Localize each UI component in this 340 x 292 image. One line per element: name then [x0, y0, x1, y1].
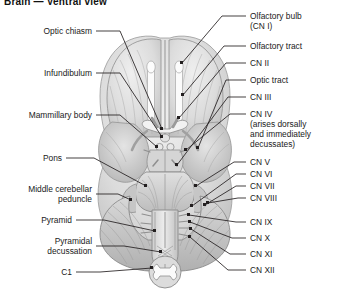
dot-cn9 [187, 213, 190, 216]
label-cn12: CN XII [250, 265, 275, 275]
dot-pyramidal-decussation [159, 250, 162, 253]
dot-pons [144, 184, 147, 187]
label-optic-chiasm-text: Optic chiasm [44, 26, 92, 36]
label-olfactory-tract: Olfactory tract [250, 41, 302, 51]
label-cn5-text: CN V [250, 157, 270, 167]
label-mcp-line1: Middle cerebellar [28, 184, 92, 194]
label-cn4: CN IV (arises dorsally and immediately d… [250, 109, 311, 149]
label-mammillary-body-text: Mammillary body [29, 110, 92, 120]
label-cn3: CN III [250, 92, 271, 102]
dot-cn11 [189, 227, 192, 230]
label-c1-text: C1 [61, 267, 72, 277]
label-cn4-line4: decussates) [250, 139, 311, 149]
label-infundibulum-text: Infundibulum [44, 68, 92, 78]
label-cn5: CN V [250, 157, 270, 167]
label-middle-cerebellar-peduncle: Middle cerebellar peduncle [28, 184, 92, 204]
dot-olfactory-tract [181, 93, 184, 96]
label-cn8-text: CN VIII [250, 193, 277, 203]
label-cn11: CN XI [250, 249, 272, 259]
label-cn10: CN X [250, 233, 270, 243]
label-cn7: CN VII [250, 181, 275, 191]
dot-infundibulum [160, 135, 163, 138]
label-cn9-text: CN IX [250, 217, 272, 227]
label-cn6: CN VI [250, 169, 272, 179]
label-olfactory-tract-text: Olfactory tract [250, 41, 302, 51]
label-optic-tract: Optic tract [250, 75, 288, 85]
label-pyr-dec-line2: decussation [47, 246, 92, 256]
label-cn7-text: CN VII [250, 181, 275, 191]
label-cn2-text: CN II [250, 58, 269, 68]
dot-cn8 [206, 201, 209, 204]
label-olfactory-bulb-line2: (CN I) [250, 21, 302, 31]
label-mcp-line2: peduncle [28, 194, 92, 204]
brain-anatomy [98, 36, 232, 288]
label-optic-tract-text: Optic tract [250, 75, 288, 85]
olfactory-bulb-left [147, 61, 155, 73]
label-cn2: CN II [250, 58, 269, 68]
label-optic-chiasm: Optic chiasm [44, 26, 92, 36]
label-pyramidal-decussation: Pyramidal decussation [47, 236, 92, 256]
dot-pyramid [153, 229, 156, 232]
dot-cn2 [177, 116, 180, 119]
dot-c1 [150, 266, 153, 269]
label-cn9: CN IX [250, 217, 272, 227]
label-olfactory-bulb: Olfactory bulb (CN I) [250, 11, 302, 31]
label-pons: Pons [43, 153, 62, 163]
label-mammillary-body: Mammillary body [29, 110, 92, 120]
label-pyramid: Pyramid [41, 215, 72, 225]
dot-cn6 [190, 204, 193, 207]
dot-mammillary-body [155, 145, 158, 148]
label-cn4-line3: and immediately [250, 129, 311, 139]
label-c1: C1 [61, 267, 72, 277]
label-pyr-dec-line1: Pyramidal [55, 236, 92, 246]
dot-cn5 [194, 184, 197, 187]
label-pyramid-text: Pyramid [41, 215, 72, 225]
label-olfactory-bulb-line1: Olfactory bulb [250, 11, 302, 21]
label-cn11-text: CN XI [250, 249, 272, 259]
dot-cn4 [184, 148, 187, 151]
dot-optic-tract [196, 146, 199, 149]
temporal-lobe-right [181, 122, 232, 182]
dot-cn3 [175, 163, 178, 166]
label-cn12-text: CN XII [250, 265, 275, 275]
dot-cn12 [188, 235, 191, 238]
label-cn3-text: CN III [250, 92, 271, 102]
label-cn8: CN VIII [250, 193, 277, 203]
mammillary-body-right [167, 143, 174, 150]
dot-cn7 [203, 203, 206, 206]
label-cn10-text: CN X [250, 233, 270, 243]
dot-olfactory-bulb [180, 61, 183, 64]
dot-mcp [129, 198, 132, 201]
label-infundibulum: Infundibulum [44, 68, 92, 78]
dot-cn10 [188, 220, 191, 223]
label-cn6-text: CN VI [250, 169, 272, 179]
temporal-lobe-left [99, 122, 150, 182]
label-pons-text: Pons [43, 153, 62, 163]
label-cn4-line2: (arises dorsally [250, 119, 311, 129]
label-cn4-line1: CN IV [250, 109, 272, 119]
dot-optic-chiasm [160, 127, 163, 130]
